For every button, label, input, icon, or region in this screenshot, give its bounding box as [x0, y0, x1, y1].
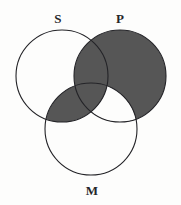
circle-label-p: P [110, 12, 130, 25]
venn-diagram-canvas [0, 0, 181, 205]
circle-label-s: S [48, 12, 68, 25]
shaded-regions-group [0, 0, 181, 205]
circle-label-m: M [82, 184, 102, 197]
venn-diagram-figure: S P M [0, 0, 181, 205]
